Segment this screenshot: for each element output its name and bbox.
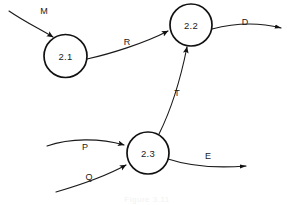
diagram-canvas: 2.1 2.2 2.3 M R D T P Q E Figure 3.11 [0, 0, 294, 205]
flow-label-d: D [242, 17, 249, 27]
flow-label-m: M [40, 6, 48, 16]
figure-caption: Figure 3.11 [0, 195, 294, 204]
process-label-2-1: 2.1 [58, 51, 72, 62]
process-label-2-2: 2.2 [184, 20, 198, 31]
flow-label-t: T [174, 88, 180, 98]
flow-label-e: E [205, 151, 211, 161]
flow-label-r: R [124, 37, 131, 47]
process-label-2-3: 2.3 [141, 148, 155, 159]
flow-label-q: Q [85, 172, 92, 182]
flow-arrow-t [159, 47, 187, 134]
dfd-svg: 2.1 2.2 2.3 M R D T P Q E [0, 0, 294, 205]
flow-label-p: P [82, 142, 88, 152]
